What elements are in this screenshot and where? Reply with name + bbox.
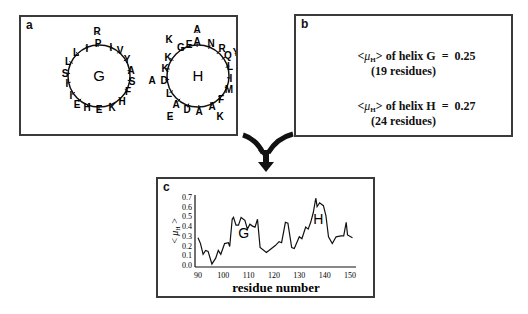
- helix-h-annotation: H: [313, 211, 323, 227]
- helix-h-wheel: H A-ANRQY-LIMFK-AADAE-LDA-KKGK-E: [148, 24, 236, 122]
- panel-b-moment-values: b <μH> of helix G = 0.25 (19 residues) <…: [294, 14, 513, 137]
- x-axis-label: residue number: [232, 280, 320, 295]
- residue-label: K: [108, 102, 116, 113]
- x-tick-label: 150: [344, 271, 356, 280]
- y-tick-label: 0.7: [182, 193, 192, 202]
- y-tick-label: 0.6: [182, 203, 192, 212]
- helix-g-label: G: [93, 67, 105, 84]
- connector-dash: -: [169, 36, 172, 45]
- moment-line-chart: 0.00.10.20.30.40.50.60.79010011012013014…: [158, 179, 373, 296]
- x-tick-label: 110: [243, 271, 255, 280]
- y-axis-label: < μH >: [169, 218, 181, 244]
- connector-dash: -: [96, 28, 99, 37]
- chart-axes: 0.00.10.20.30.40.50.60.79010011012013014…: [182, 193, 356, 280]
- residue-label: A: [208, 101, 215, 112]
- residue-label: I: [66, 78, 69, 89]
- y-tick-label: 0.4: [182, 222, 192, 231]
- residue-label: I: [70, 90, 73, 101]
- residue-label: Y: [124, 54, 131, 65]
- x-tick-label: 120: [268, 271, 280, 280]
- y-tick-label: 0.5: [182, 212, 192, 221]
- x-tick-label: 100: [217, 271, 229, 280]
- residue-label: H: [83, 102, 90, 113]
- residue-label: K: [164, 52, 172, 63]
- connector-dash: -: [170, 110, 173, 119]
- panel-letter: b: [301, 17, 308, 31]
- residue-label: G: [177, 42, 185, 53]
- residue-label: Q: [224, 50, 232, 61]
- panel-a-helical-wheels: a G R-PIVYASFHKEHEIISLLI H A-ANRQY-LIMFK…: [19, 15, 238, 136]
- helix-h-moment-line: <μH> of helix H = 0.27: [296, 99, 511, 114]
- down-arrow-icon: [258, 151, 274, 172]
- y-tick-label: 0.1: [182, 251, 192, 260]
- svg-text:< μH >: < μH >: [169, 218, 181, 244]
- x-tick-label: 130: [293, 271, 305, 280]
- helix-h-residue-count: (24 residues): [296, 114, 511, 129]
- helix-g-annotation: G: [238, 225, 249, 241]
- helix-h-label: H: [193, 67, 204, 84]
- curved-arrows-icon: [243, 134, 293, 158]
- connector-dash: -: [152, 76, 155, 85]
- residue-label: L: [166, 88, 172, 99]
- x-tick-label: 140: [319, 271, 331, 280]
- residue-label: V: [117, 45, 124, 56]
- connector-dash: -: [196, 27, 199, 36]
- x-tick-label: 90: [194, 271, 202, 280]
- y-tick-label: 0.0: [182, 261, 192, 270]
- residue-label: M: [225, 84, 233, 95]
- helix-g-residue-count: (19 residues): [296, 64, 511, 79]
- connector-dash: -: [234, 48, 236, 57]
- residue-label: I: [230, 73, 233, 84]
- panel-c-moment-plot: c 0.00.10.20.30.40.50.60.790100110120130…: [156, 177, 375, 298]
- residue-label: D: [160, 75, 167, 86]
- helix-g-moment-line: <μH> of helix G = 0.25: [296, 49, 511, 64]
- residue-label: N: [207, 38, 214, 49]
- y-tick-label: 0.2: [182, 242, 192, 251]
- y-tick-label: 0.3: [182, 232, 192, 241]
- helix-g-wheel: G R-PIVYASFHKEHEIISLLI: [62, 26, 136, 115]
- moment-curve: [198, 198, 353, 264]
- residue-label: D: [183, 104, 190, 115]
- connector-dash: -: [218, 111, 221, 120]
- residue-tick: [128, 80, 132, 81]
- helical-wheel-diagram: G R-PIVYASFHKEHEIISLLI H A-ANRQY-LIMFK-A…: [21, 17, 236, 134]
